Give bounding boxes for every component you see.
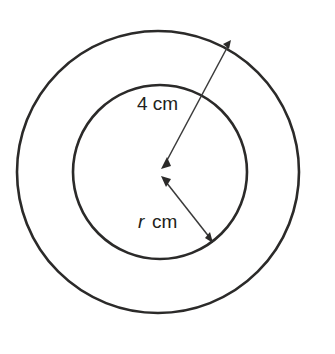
outer-radius-label: 4 cm (137, 93, 178, 114)
inner-radius-label-unit: cm (152, 211, 177, 232)
inner-radius-label-variable: r (138, 211, 145, 232)
geometry-diagram-canvas: 4 cm r cm (0, 0, 335, 354)
concentric-circles-figure: 4 cm r cm (0, 0, 335, 354)
diagram-background (0, 0, 335, 354)
inner-radius-label-group: r cm (138, 211, 177, 232)
